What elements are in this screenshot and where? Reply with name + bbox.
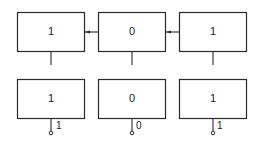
bottom-cell-2: 0 0 bbox=[99, 80, 166, 135]
cell-value: 1 bbox=[48, 92, 54, 104]
cell-value: 1 bbox=[210, 92, 216, 104]
bottom-cell-1: 1 1 bbox=[18, 80, 85, 135]
shift-register-diagram: 1 0 1 1 1 bbox=[0, 0, 256, 144]
output-label: 1 bbox=[56, 120, 62, 131]
cell-value: 1 bbox=[48, 25, 54, 37]
output-terminal-icon bbox=[211, 131, 215, 135]
connector-2-to-1 bbox=[85, 31, 98, 34]
top-cell-1: 1 bbox=[18, 13, 85, 66]
bottom-row: 1 1 0 0 1 1 bbox=[18, 80, 247, 135]
output-terminal-icon bbox=[49, 131, 53, 135]
cell-value: 1 bbox=[210, 25, 216, 37]
bottom-cell-3: 1 1 bbox=[180, 80, 247, 135]
cell-value: 0 bbox=[129, 25, 135, 37]
output-label: 0 bbox=[136, 120, 142, 131]
output-terminal-icon bbox=[130, 131, 134, 135]
top-row: 1 0 1 bbox=[18, 13, 247, 66]
arrow-left-icon bbox=[166, 31, 171, 34]
connector-3-to-2 bbox=[166, 31, 179, 34]
top-cell-2: 0 bbox=[99, 13, 166, 66]
arrow-left-icon bbox=[85, 31, 90, 34]
output-label: 1 bbox=[217, 120, 223, 131]
top-cell-3: 1 bbox=[180, 13, 247, 66]
cell-value: 0 bbox=[129, 92, 135, 104]
